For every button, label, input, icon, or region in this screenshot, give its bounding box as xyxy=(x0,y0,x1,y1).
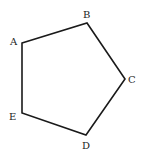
pentagon-diagram: A B C D E xyxy=(0,0,143,154)
vertex-label-d: D xyxy=(82,140,90,151)
pentagon-shape xyxy=(22,23,125,135)
vertex-label-b: B xyxy=(83,9,90,20)
vertex-label-c: C xyxy=(128,74,136,85)
vertex-label-a: A xyxy=(9,36,18,47)
vertex-label-e: E xyxy=(9,111,16,122)
